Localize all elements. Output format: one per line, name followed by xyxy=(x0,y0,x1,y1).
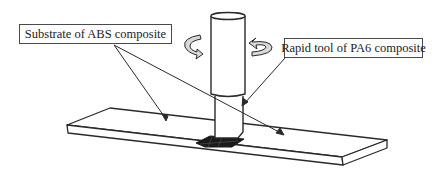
substrate-label: Substrate of ABS composite xyxy=(19,24,172,44)
tool-top xyxy=(211,13,245,20)
rotation-arrow-left-icon xyxy=(185,35,203,59)
tool-pin xyxy=(215,96,243,138)
rapid-tool xyxy=(211,13,245,139)
tool-body xyxy=(211,16,245,97)
tool-label: Rapid tool of PA6 composite xyxy=(284,38,423,58)
rotation-arrow-right-icon xyxy=(249,38,272,56)
leader-tool xyxy=(244,58,285,104)
arrowhead-icon xyxy=(242,98,248,106)
leader-substrate-left xyxy=(114,45,166,119)
